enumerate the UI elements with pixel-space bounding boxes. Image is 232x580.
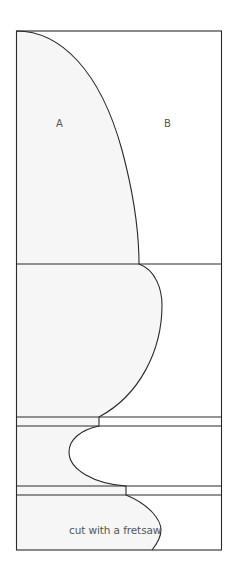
- region-a-fill: [17, 31, 163, 550]
- profile-template-diagram: [0, 0, 232, 580]
- region-b-label: B: [164, 119, 171, 129]
- fretsaw-note: cut with a fretsaw: [69, 525, 161, 536]
- region-a-label: A: [56, 119, 63, 129]
